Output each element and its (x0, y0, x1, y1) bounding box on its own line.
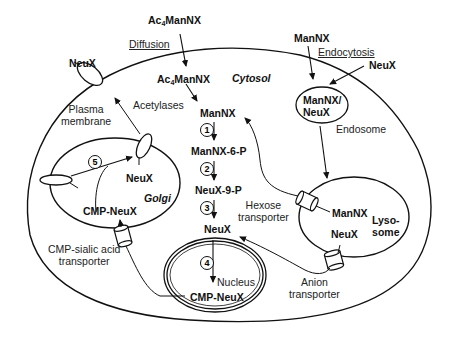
nucleus-label: Nucleus (217, 277, 255, 289)
plasma-membrane-label: Plasmamembrane (61, 104, 111, 127)
endosome-label: Endosome (336, 124, 386, 136)
metabolic-pathway-diagram: Ac4ManNX Diffusion NeuX ManNX Endocytosi… (0, 0, 451, 339)
step-3-badge: 3 (200, 201, 214, 215)
mannx-lysosome-label: ManNX (332, 208, 368, 220)
neux-cytosol-label: NeuX (204, 224, 231, 236)
anion-transporter-label: Aniontransporter (289, 277, 340, 300)
cytosol-label: Cytosol (232, 73, 271, 85)
mannx-6-p-label: ManNX-6-P (191, 146, 246, 158)
cmp-neux-nucleus-label: CMP-NeuX (190, 292, 244, 304)
step-2-badge: 2 (200, 162, 214, 176)
neux-lysosome-label: NeuX (331, 229, 358, 241)
mannx-outside-label: ManNX (294, 33, 330, 45)
hexose-transporter-label: Hexosetransporter (238, 200, 289, 223)
ac4mannx-cytosol-label: Ac4ManNX (157, 74, 210, 87)
acetylases-label: Acetylases (133, 100, 184, 112)
endosome-content-label: ManNX/NeuX (303, 95, 342, 118)
diffusion-label: Diffusion (129, 39, 170, 51)
step-4-badge: 4 (200, 256, 214, 270)
step-5-badge: 5 (88, 155, 102, 169)
cmp-sialic-acid-transporter-label: CMP-sialic acidtransporter (48, 244, 120, 267)
step-1-badge: 1 (200, 123, 214, 137)
endocytosis-label: Endocytosis (318, 47, 375, 59)
lysosome-label: Lyso-some (372, 215, 400, 238)
neux-9-p-label: NeuX-9-P (195, 185, 242, 197)
cmp-neux-golgi-label: CMP-NeuX (83, 206, 137, 218)
neux-outside-left-label: NeuX (69, 58, 96, 70)
mannx-label: ManNX (200, 108, 236, 120)
golgi-label: Golgi (144, 193, 171, 205)
neux-outside-right-label: NeuX (369, 60, 396, 72)
ac4mannx-outside-label: Ac4ManNX (148, 15, 201, 28)
neux-golgi-label: NeuX (126, 173, 153, 185)
